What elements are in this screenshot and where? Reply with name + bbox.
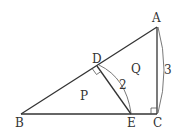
label-C: C <box>153 116 162 130</box>
measure-label-DE: 2 <box>119 78 127 92</box>
label-A: A <box>151 11 161 25</box>
label-B: B <box>15 116 24 130</box>
region-label-P: P <box>80 89 88 103</box>
measure-label-AC: 3 <box>164 63 172 77</box>
region-label-Q: Q <box>131 62 141 76</box>
label-E: E <box>127 116 136 130</box>
geometry-diagram: A B C D E P Q 2 3 <box>0 0 182 137</box>
right-angle-marker-C <box>151 108 157 114</box>
label-D: D <box>92 52 102 66</box>
